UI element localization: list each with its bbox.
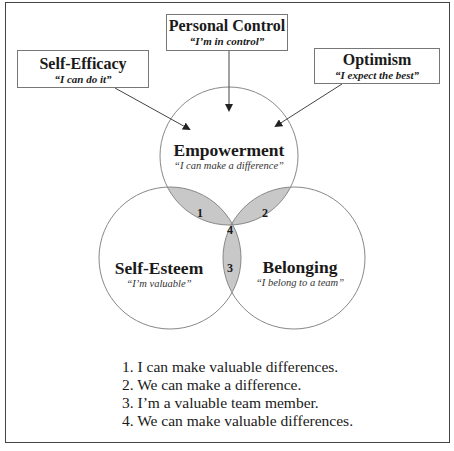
empowerment-quote: “I can make a difference” <box>164 160 294 172</box>
legend-item-2: 2. We can make a difference. <box>122 376 353 394</box>
belonging-title: Belonging <box>250 257 350 277</box>
self-esteem-label: Self-Esteem “I’m valuable” <box>104 258 214 290</box>
legend-list: 1. I can make valuable differences. 2. W… <box>122 358 353 430</box>
self-efficacy-quote: “I can do it” <box>18 73 148 86</box>
belonging-quote: “I belong to a team” <box>250 277 350 289</box>
arrow-self-efficacy <box>115 88 189 129</box>
optimism-box: Optimism “I expect the best” <box>314 48 440 84</box>
intersection-4: 4 <box>227 223 233 238</box>
optimism-title: Optimism <box>315 51 439 69</box>
intersection-3: 3 <box>227 261 233 276</box>
empowerment-title: Empowerment <box>164 140 294 160</box>
self-esteem-quote: “I’m valuable” <box>104 278 214 290</box>
legend-item-1: 1. I can make valuable differences. <box>122 358 353 376</box>
belonging-label: Belonging “I belong to a team” <box>250 257 350 289</box>
self-esteem-title: Self-Esteem <box>104 258 214 278</box>
self-efficacy-box: Self-Efficacy “I can do it” <box>17 50 149 88</box>
personal-control-title: Personal Control <box>167 17 287 35</box>
empowerment-label: Empowerment “I can make a difference” <box>164 140 294 172</box>
personal-control-box: Personal Control “I’m in control” <box>166 14 288 51</box>
optimism-quote: “I expect the best” <box>315 69 439 82</box>
intersection-2: 2 <box>262 206 268 221</box>
self-efficacy-title: Self-Efficacy <box>18 55 148 73</box>
personal-control-quote: “I’m in control” <box>167 35 287 48</box>
legend-item-3: 3. I’m a valuable team member. <box>122 394 353 412</box>
intersection-1: 1 <box>197 206 203 221</box>
legend-item-4: 4. We can make valuable differences. <box>122 412 353 430</box>
arrow-optimism <box>276 84 342 126</box>
